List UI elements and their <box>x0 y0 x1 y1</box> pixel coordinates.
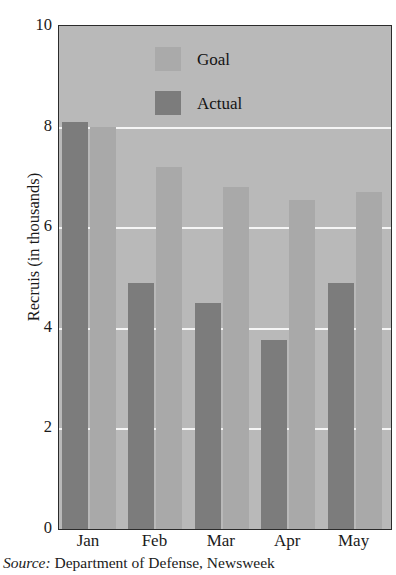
plot-area: GoalActual <box>58 25 392 530</box>
bar-jan-actual <box>62 122 88 529</box>
legend-swatch-actual <box>155 91 181 115</box>
chart-legend: GoalActual <box>155 42 305 130</box>
legend-item-actual: Actual <box>155 86 305 120</box>
legend-swatch-goal <box>155 47 181 71</box>
source-note: Source: Department of Defense, Newsweek <box>3 554 275 571</box>
bar-may-actual <box>328 283 354 529</box>
x-axis-tick-label: Mar <box>207 532 235 551</box>
y-axis-tick-label: 4 <box>26 319 52 336</box>
y-axis-tick-label: 0 <box>26 520 52 537</box>
bar-apr-goal <box>289 200 315 529</box>
recruits-bar-chart-figure: Recruis (in thousands) 1086420 GoalActua… <box>0 0 396 575</box>
bar-feb-goal <box>156 167 182 529</box>
y-axis-tick-label: 8 <box>26 117 52 134</box>
bar-apr-actual <box>261 340 287 529</box>
y-axis-tick-label: 6 <box>26 218 52 235</box>
x-axis-tick-label: Jan <box>77 532 100 551</box>
bar-may-goal <box>356 192 382 529</box>
x-axis-tick-label: Apr <box>274 532 300 551</box>
legend-label: Goal <box>197 51 230 68</box>
legend-item-goal: Goal <box>155 42 305 76</box>
bar-mar-goal <box>223 187 249 529</box>
bar-jan-goal <box>90 127 116 529</box>
x-axis-tick-label: Feb <box>142 532 168 551</box>
source-note-text: Department of Defense, Newsweek <box>51 554 275 571</box>
bar-mar-actual <box>195 303 221 529</box>
x-axis-tick-label: May <box>338 532 369 551</box>
y-axis-tick-label: 2 <box>26 419 52 436</box>
y-axis-tick-label: 10 <box>26 17 52 34</box>
source-note-prefix: Source: <box>3 554 51 571</box>
bar-feb-actual <box>128 283 154 529</box>
legend-label: Actual <box>197 95 242 112</box>
y-axis-tick-labels: 1086420 <box>26 0 52 575</box>
